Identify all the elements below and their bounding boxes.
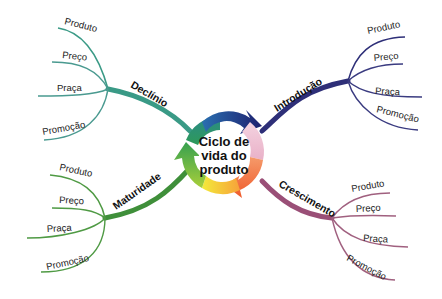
leaf-crescimento-preco: Preço: [356, 202, 381, 214]
leaf-maturidade-praca: Praça: [47, 222, 73, 234]
leaf-crescimento-praca: Praça: [363, 232, 389, 245]
leaf-declinio-promocao: Promoção: [41, 119, 86, 137]
leaf-declinio-preco: Preço: [62, 49, 88, 63]
mind-map-canvas: Declínio Produto Preço Praça Promoção In…: [0, 0, 442, 299]
leaf-introducao-preco: Preço: [373, 50, 399, 63]
center-title-line-1: Ciclo de: [199, 134, 250, 149]
leaf-crescimento-produto: Produto: [350, 177, 385, 194]
branch-declinio: Declínio Produto Preço Praça Promoção: [38, 15, 190, 140]
leaf-declinio-praca: Praça: [57, 82, 83, 93]
leaf-crescimento-promocao: Promoção: [345, 252, 388, 282]
center-title-line-3: produto: [199, 162, 248, 177]
branch-maturidade: Maturidade Produto Preço Praça Promoção: [27, 161, 190, 272]
center-title-line-2: vida do: [201, 148, 247, 163]
leaf-maturidade-produto: Produto: [59, 161, 94, 179]
branch-label-introducao: Introdução: [272, 75, 324, 114]
leaf-introducao-praca: Praça: [375, 85, 401, 97]
branch-crescimento: Crescimento Produto Preço Praça Promoção: [262, 177, 408, 282]
branch-introducao: Introdução Produto Preço Praça Promoção: [262, 18, 422, 131]
leaf-introducao-produto: Produto: [366, 18, 401, 36]
branch-label-maturidade: Maturidade: [110, 170, 163, 212]
leaf-maturidade-preco: Preço: [59, 194, 84, 206]
lifecycle-ring: Ciclo de vida do produto: [174, 110, 264, 198]
